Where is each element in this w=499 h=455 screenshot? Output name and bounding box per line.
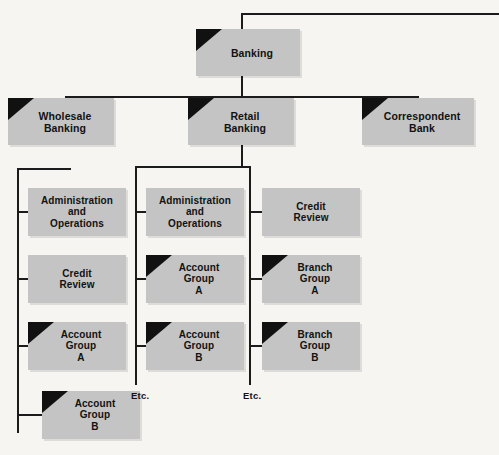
org-node-wb-account-group-a[interactable]: Account Group A (28, 322, 126, 370)
org-node-label: Retail Banking (216, 110, 266, 134)
org-node-label: Administration and Operations (159, 195, 231, 230)
org-node-correspondent-bank[interactable]: Correspondent Bank (362, 98, 474, 145)
corner-flag-icon (42, 391, 68, 413)
org-chart-canvas: BankingWholesale BankingRetail BankingCo… (0, 0, 499, 455)
org-node-label: Account Group A (171, 262, 220, 297)
connector-line-rb-split-rail (135, 166, 251, 168)
org-node-rb-branch-group-b[interactable]: Branch Group B (262, 322, 360, 370)
org-node-rb-admin-ops[interactable]: Administration and Operations (146, 188, 244, 236)
org-node-wb-account-group-b[interactable]: Account Group B (42, 391, 140, 439)
connector-line-root-top-rail (241, 13, 499, 15)
org-node-label: Account Group A (53, 329, 102, 364)
org-node-label: Credit Review (293, 201, 328, 224)
corner-flag-icon (146, 255, 172, 277)
org-node-wb-admin-ops[interactable]: Administration and Operations (28, 188, 126, 236)
org-node-wb-credit-review[interactable]: Credit Review (28, 255, 126, 303)
org-node-label: Banking (223, 47, 273, 59)
etc-label-etc-retail-right: Etc. (243, 390, 261, 401)
org-node-rb-branch-group-a[interactable]: Branch Group A (262, 255, 360, 303)
corner-flag-icon (28, 322, 54, 344)
connector-line-wb-drop (17, 168, 19, 433)
connector-line-banking-stem-down (241, 76, 243, 98)
connector-line-root-stem-up (241, 13, 243, 29)
org-node-banking[interactable]: Banking (196, 29, 300, 76)
etc-label-etc-retail-middle: Etc. (131, 390, 149, 401)
org-node-rb-account-group-a[interactable]: Account Group A (146, 255, 244, 303)
connector-line-rb-right-drop (249, 166, 251, 385)
corner-flag-icon (262, 255, 288, 277)
org-node-label: Correspondent Bank (376, 110, 461, 134)
org-node-label: Account Group B (171, 329, 220, 364)
org-node-label: Branch Group A (289, 262, 332, 297)
corner-flag-icon (196, 29, 222, 51)
connector-line-wb-branch-4 (17, 414, 44, 416)
org-node-label: Branch Group B (289, 329, 332, 364)
org-node-label: Credit Review (59, 268, 94, 291)
org-node-retail-banking[interactable]: Retail Banking (188, 98, 294, 145)
connector-line-rb-mid-drop (135, 166, 137, 385)
corner-flag-icon (188, 98, 214, 120)
org-node-wholesale-banking[interactable]: Wholesale Banking (8, 98, 114, 145)
corner-flag-icon (146, 322, 172, 344)
org-node-label: Administration and Operations (41, 195, 113, 230)
org-node-rb-credit-review[interactable]: Credit Review (262, 188, 360, 236)
org-node-rb-account-group-b[interactable]: Account Group B (146, 322, 244, 370)
connector-line-rb-stem-down (241, 145, 243, 168)
org-node-label: Account Group B (67, 398, 116, 433)
connector-line-wb-drop-top-rail (17, 168, 71, 170)
org-node-label: Wholesale Banking (31, 110, 92, 134)
corner-flag-icon (262, 322, 288, 344)
